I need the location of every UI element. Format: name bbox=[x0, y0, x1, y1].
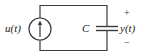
minus-sign: − bbox=[124, 38, 130, 48]
source-label: u(t) bbox=[5, 23, 21, 34]
plus-sign: + bbox=[124, 8, 130, 18]
capacitor-label: C bbox=[82, 23, 89, 34]
circuit-diagram: u(t) C y(t) + − bbox=[0, 0, 141, 56]
output-label: y(t) bbox=[120, 23, 135, 34]
arrow-head-icon bbox=[38, 21, 42, 26]
